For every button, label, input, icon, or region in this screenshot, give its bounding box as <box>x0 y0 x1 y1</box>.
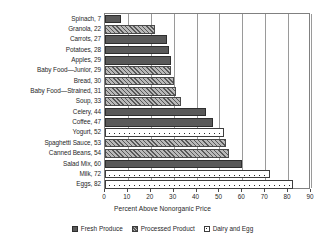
bar-celery <box>105 108 206 117</box>
gridline-90 <box>311 14 312 188</box>
y-tick-label: Carrots, 27 <box>0 35 101 42</box>
bar-row <box>105 45 311 55</box>
bar-series <box>105 14 309 188</box>
y-tick-label: Canned Beans, 54 <box>0 149 101 156</box>
bar-row <box>105 24 311 34</box>
bar-row <box>105 55 311 65</box>
bar-row <box>105 128 311 138</box>
x-tick-label-40: 40 <box>192 193 199 201</box>
y-tick-label: Coffee, 47 <box>0 118 101 125</box>
bar-spinach <box>105 15 121 24</box>
x-tick-label-80: 80 <box>284 193 291 201</box>
bar-row <box>105 35 311 45</box>
x-tick-90 <box>310 189 311 192</box>
bar-row <box>105 159 311 169</box>
y-tick-label: Spaghetti Sauce, 53 <box>0 139 101 146</box>
y-tick-label: Bread, 30 <box>0 77 101 84</box>
legend-label: Processed Product <box>141 225 195 232</box>
x-tick-60 <box>241 189 242 192</box>
y-tick-label: Potatoes, 28 <box>0 46 101 53</box>
y-tick-label: Soup, 33 <box>0 97 101 104</box>
x-tick-0 <box>104 189 105 192</box>
y-tick-label: Apples, 29 <box>0 56 101 63</box>
x-tick-10 <box>127 189 128 192</box>
bar-bread <box>105 77 174 86</box>
bar-soup <box>105 97 181 106</box>
x-tick-label-0: 0 <box>102 193 106 201</box>
bar-row <box>105 14 311 24</box>
legend-swatch-processed-icon <box>132 226 138 232</box>
bar-milk <box>105 170 270 179</box>
plot-area <box>104 13 310 189</box>
bar-eggs <box>105 180 293 189</box>
legend-swatch-fresh-icon <box>72 226 78 232</box>
y-tick-label: Granola, 22 <box>0 25 101 32</box>
legend-item-fresh: Fresh Produce <box>72 225 123 232</box>
bar-yogurt <box>105 128 224 137</box>
legend-label: Fresh Produce <box>81 225 123 232</box>
y-tick-label: Baby Food—Junior, 29 <box>0 66 101 73</box>
bar-row <box>105 138 311 148</box>
x-tick-40 <box>196 189 197 192</box>
x-tick-label-70: 70 <box>261 193 268 201</box>
x-tick-label-60: 60 <box>238 193 245 201</box>
bar-row <box>105 97 311 107</box>
bar-row <box>105 149 311 159</box>
legend-item-dairy: Dairy and Egg <box>204 225 254 232</box>
bar-spaghetti-sauce <box>105 139 226 148</box>
y-tick-label: Celery, 44 <box>0 108 101 115</box>
bar-row <box>105 169 311 179</box>
bar-carrots <box>105 35 167 44</box>
bar-row <box>105 118 311 128</box>
bar-baby-food-strained <box>105 87 176 96</box>
x-tick-30 <box>173 189 174 192</box>
x-tick-label-90: 90 <box>306 193 313 201</box>
x-tick-label-20: 20 <box>146 193 153 201</box>
x-tick-70 <box>264 189 265 192</box>
bar-row <box>105 86 311 96</box>
legend-swatch-dairy-icon <box>204 226 210 232</box>
bar-baby-food-junior <box>105 66 171 75</box>
x-tick-label-50: 50 <box>215 193 222 201</box>
bar-row <box>105 76 311 86</box>
bar-canned-beans <box>105 149 229 158</box>
y-tick-label: Spinach, 7 <box>0 15 101 22</box>
bar-apples <box>105 56 171 65</box>
bar-chart: Spinach, 7Granola, 22Carrots, 27Potatoes… <box>0 0 325 239</box>
legend-label: Dairy and Egg <box>213 225 254 232</box>
bar-coffee <box>105 118 213 127</box>
bar-row <box>105 107 311 117</box>
bar-potatoes <box>105 46 169 55</box>
bar-salad-mix <box>105 160 242 169</box>
legend-item-processed: Processed Product <box>132 225 195 232</box>
x-tick-label-10: 10 <box>123 193 130 201</box>
bar-row <box>105 66 311 76</box>
x-tick-80 <box>287 189 288 192</box>
y-tick-label: Baby Food—Strained, 31 <box>0 87 101 94</box>
y-tick-label: Eggs, 82 <box>0 180 101 187</box>
x-tick-50 <box>218 189 219 192</box>
x-axis-title: Percent Above Nonorganic Price <box>0 205 325 212</box>
x-tick-label-30: 30 <box>169 193 176 201</box>
y-tick-label: Milk, 72 <box>0 170 101 177</box>
y-tick-label: Yogurt, 52 <box>0 128 101 135</box>
legend: Fresh ProduceProcessed ProductDairy and … <box>0 225 325 232</box>
bar-granola <box>105 25 155 34</box>
y-tick-label: Salad Mix, 60 <box>0 160 101 167</box>
x-tick-20 <box>150 189 151 192</box>
